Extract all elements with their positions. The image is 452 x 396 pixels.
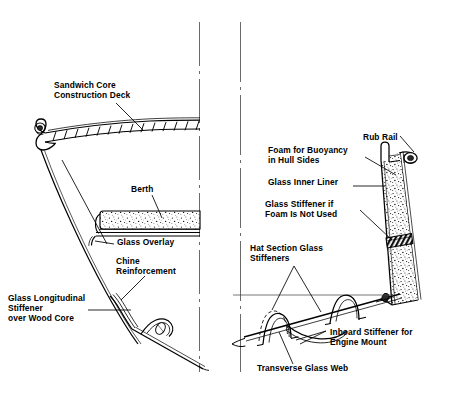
hull-bottom-left [132,327,209,370]
label-sandwich-core-deck: Sandwich Core Construction Deck [54,80,130,100]
label-inboard-stiffener-engine-mount: Inboard Stiffener for Engine Mount [330,327,413,347]
deck-edge-rub-rail [35,119,56,150]
label-berth: Berth [131,184,153,194]
label-rub-rail: Rub Rail [363,132,398,142]
leader-chine-reinforcement [121,276,145,300]
glass-longitudinal-stiffener [141,319,173,337]
leader-glass-overlay [95,241,114,244]
label-transverse-glass-web: Transverse Glass Web [257,363,348,373]
hull-side-foam-core [381,142,421,305]
hull-section-diagram: Sandwich Core Construction Deck Berth Gl… [0,0,452,396]
leader-hat-stiffeners-a [272,266,294,310]
leader-rub-rail [400,136,414,152]
leader-sandwich-core-deck [116,103,143,130]
leader-hat-stiffeners-b [294,266,321,312]
label-foam-for-buoyancy: Foam for Buoyancy in Hull Sides [268,145,348,165]
deck-core-webs [53,121,199,141]
label-hat-section-glass-stiffeners: Hat Section Glass Stiffeners [250,243,323,263]
label-glass-overlay: Glass Overlay [117,237,174,247]
sandwich-core-deck [45,118,200,142]
label-glass-stiffener-if-foam: Glass Stiffener if Foam Is Not Used [265,199,337,219]
label-glass-longitudinal-stiffener: Glass Longitudinal Stiffener over Wood C… [8,293,85,324]
leader-glass-longitudinal-from-deck-edge [62,160,107,244]
label-chine-reinforcement: Chine Reinforcement [116,256,176,276]
label-glass-inner-liner: Glass Inner Liner [268,177,338,187]
leader-lines [62,103,414,364]
